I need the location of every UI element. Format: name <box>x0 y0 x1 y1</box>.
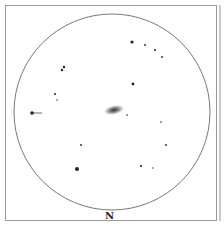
star <box>165 144 167 146</box>
star <box>154 49 156 51</box>
star <box>75 167 79 171</box>
star <box>161 56 163 58</box>
galaxy <box>102 103 126 117</box>
north-label: N <box>105 210 114 221</box>
star <box>61 69 63 71</box>
motion-arrow-icon <box>30 111 42 115</box>
star <box>80 144 82 146</box>
star <box>132 83 135 86</box>
star <box>144 44 146 46</box>
star-field <box>54 40 167 171</box>
star <box>160 121 162 123</box>
star <box>130 40 133 43</box>
star <box>54 93 56 95</box>
star <box>126 114 128 116</box>
star <box>140 165 142 167</box>
star <box>152 167 153 168</box>
star <box>56 99 57 100</box>
eyepiece-field <box>0 0 224 228</box>
star <box>63 66 65 68</box>
